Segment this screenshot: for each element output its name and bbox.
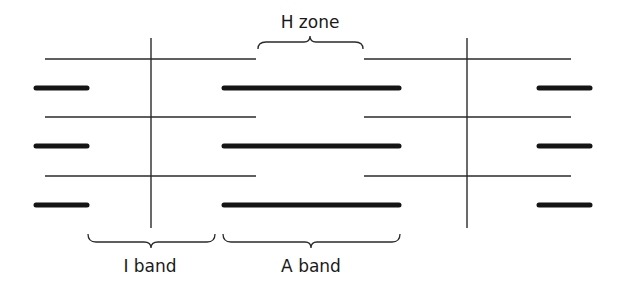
h-zone-label: H zone bbox=[281, 12, 340, 32]
h-zone-brace bbox=[258, 36, 363, 49]
a-band-brace bbox=[223, 234, 400, 248]
i-band-label: I band bbox=[123, 256, 176, 276]
diagram-canvas: H zone I band A band bbox=[0, 0, 629, 283]
a-band-label: A band bbox=[281, 256, 341, 276]
sarcomere-diagram: H zone I band A band bbox=[0, 0, 629, 283]
i-band-brace bbox=[88, 234, 215, 248]
